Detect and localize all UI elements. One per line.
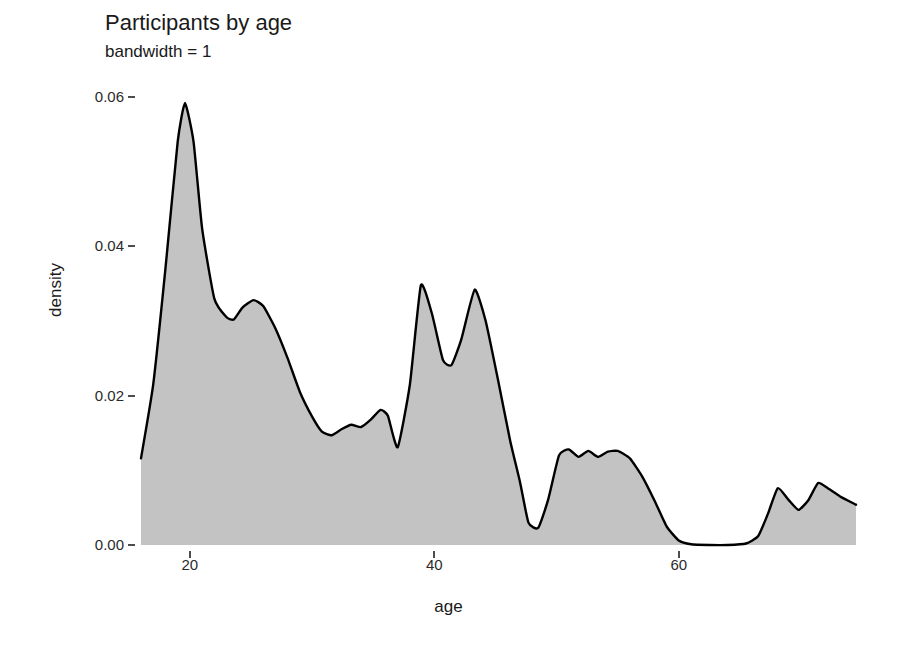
density-area-fill: [141, 103, 856, 545]
density-plot: Participants by age bandwidth = 1 densit…: [0, 0, 897, 645]
density-curve-svg: [0, 0, 897, 645]
